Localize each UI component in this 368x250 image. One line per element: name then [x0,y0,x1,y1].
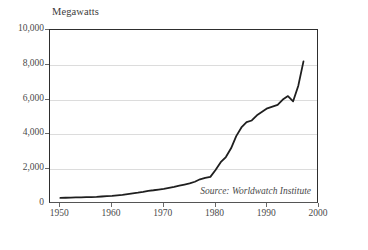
y-tick-label-8000: 8,000 [0,58,44,68]
source-note: Source: Worldwatch Institute [200,186,311,196]
x-tick-label-1950: 1950 [36,208,82,218]
plot-area: Source: Worldwatch Institute [49,29,318,203]
y-tick-label-10000: 10,000 [0,23,44,33]
y-tick-label-0: 0 [0,197,44,207]
data-series-layer [50,30,319,204]
y-tick-label-2000: 2,000 [0,162,44,172]
series-line-geothermal [60,61,303,198]
x-tick-label-1980: 1980 [192,208,238,218]
y-tick-label-4000: 4,000 [0,127,44,137]
geothermal-capacity-line-chart: Megawatts 02,0004,0006,0008,00010,000 19… [0,0,368,250]
x-tick-label-2000: 2000 [295,208,341,218]
x-tick-label-1960: 1960 [88,208,134,218]
x-tick-label-1970: 1970 [140,208,186,218]
chart-title: Megawatts [52,6,99,17]
y-tick-label-6000: 6,000 [0,93,44,103]
x-tick-label-1990: 1990 [243,208,289,218]
